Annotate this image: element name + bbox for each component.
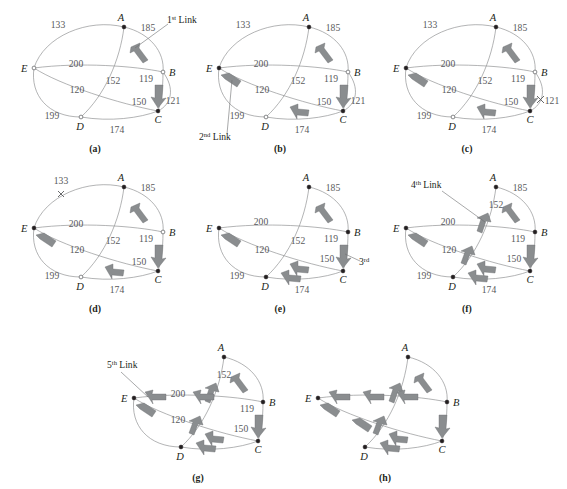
node-C [341, 269, 345, 273]
node-D [264, 115, 268, 119]
weight-174: 174 [295, 284, 310, 295]
node-B [445, 400, 449, 404]
arrow-link-C-D-upper [477, 261, 496, 276]
node-label-A: A [117, 12, 125, 23]
node-B [161, 70, 165, 74]
weight-119: 119 [240, 403, 254, 414]
weight-150: 150 [132, 256, 147, 267]
weight-121: 121 [545, 95, 560, 106]
weight-152: 152 [217, 369, 232, 380]
weight-119: 119 [139, 233, 153, 244]
annotation-2nd-link: 2nd Link [199, 131, 231, 143]
weight-133: 133 [236, 19, 251, 30]
node-E [217, 66, 221, 70]
node-E [32, 226, 36, 230]
weight-185: 185 [141, 182, 156, 193]
edge-A-D [365, 357, 408, 447]
node-A [494, 25, 498, 29]
arrow-link-A-D-lower [189, 416, 203, 435]
edge-A-B [124, 27, 163, 72]
node-B [533, 70, 537, 74]
panel-f-nodes [404, 185, 537, 279]
annotation-4th-link: 4th Link [411, 179, 442, 191]
caption-c: (c) [462, 143, 473, 155]
leader-line-2nd-link [227, 80, 232, 134]
node-D [264, 275, 268, 279]
node-label-C: C [154, 114, 162, 125]
node-A [122, 25, 126, 29]
weight-174: 174 [482, 284, 497, 295]
node-label-C: C [339, 114, 347, 125]
edge-D-C [81, 111, 158, 119]
weight-119: 119 [139, 73, 153, 84]
arrow-link-C-D [477, 104, 496, 119]
node-A [406, 355, 410, 359]
weight-119: 119 [511, 233, 525, 244]
node-A [307, 185, 311, 189]
node-D [179, 445, 183, 449]
edge-E-B [34, 225, 163, 232]
weight-200: 200 [254, 58, 269, 69]
node-label-B: B [169, 67, 176, 78]
caption-b: (b) [274, 143, 286, 155]
weight-199: 199 [45, 110, 60, 121]
node-label-A: A [302, 172, 310, 183]
weight-119: 119 [324, 233, 338, 244]
arrow-link-B-E-mid [363, 390, 384, 404]
arrow-link-B-E-right [397, 390, 418, 404]
arrow-link-A-B [502, 203, 520, 223]
panel-a-edges [33, 25, 170, 120]
panel-h-arrows [320, 373, 450, 455]
arrow-link-B-E-left [145, 390, 166, 404]
node-label-C: C [339, 274, 347, 285]
edge-E-B [219, 65, 348, 72]
node-D [451, 275, 455, 279]
node-B [533, 230, 537, 234]
arrow-link-A-D-lower [461, 246, 475, 265]
arrow-link-B-C [336, 245, 351, 268]
weight-200: 200 [69, 218, 84, 229]
arrow-link-E-D-mid [352, 418, 372, 432]
panel-b-edges [218, 25, 355, 120]
edge-A-B [124, 187, 163, 232]
arrow-link-A-B [130, 43, 148, 63]
arrow-link-B-C [523, 85, 538, 108]
node-label-A: A [489, 172, 497, 183]
node-label-A: A [401, 342, 409, 353]
node-B [261, 400, 265, 404]
node-label-A: A [489, 12, 497, 23]
node-E [32, 66, 36, 70]
node-label-B: B [453, 397, 460, 408]
weight-174: 174 [110, 124, 125, 135]
edge-A-B [309, 27, 348, 72]
arrow-link-B-C [336, 85, 351, 108]
edge-E-B [219, 225, 348, 232]
arrow-link-C-D [105, 264, 124, 279]
node-label-B: B [354, 227, 361, 238]
weight-199: 199 [230, 270, 245, 281]
node-label-D: D [260, 121, 269, 132]
weight-120: 120 [255, 244, 270, 255]
weight-152: 152 [291, 235, 306, 246]
caption-h: (h) [379, 472, 391, 484]
weight-150: 150 [234, 423, 249, 434]
node-label-B: B [541, 227, 548, 238]
arrow-link-E-D-head [408, 233, 428, 247]
panel-e-nodes [217, 185, 350, 279]
arrow-link-E-D-head [408, 73, 428, 87]
arrow-link-C-D [290, 104, 309, 119]
weight-174: 174 [110, 284, 125, 295]
node-label-C: C [254, 444, 262, 455]
node-C [156, 109, 160, 113]
node-C [156, 269, 160, 273]
arrow-link-E-D-head [136, 403, 156, 417]
arrow-link-A-D-upper [477, 213, 491, 233]
weight-185: 185 [326, 182, 341, 193]
figure-container: A B C D E 133 185 200 152 119 120 150 12… [0, 0, 567, 489]
node-label-D: D [359, 451, 368, 462]
weight-185: 185 [326, 22, 341, 33]
arrow-link-E-D-head [221, 233, 241, 247]
node-label-D: D [175, 451, 184, 462]
arrow-link-B-E-left [329, 390, 350, 404]
caption-d: (d) [89, 303, 101, 315]
